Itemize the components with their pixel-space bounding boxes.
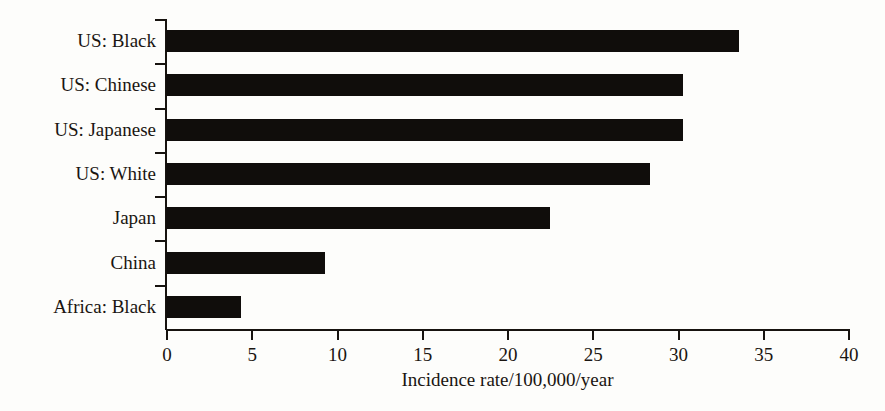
x-axis-tick-label: 5 bbox=[222, 344, 282, 366]
x-axis-tick-label: 35 bbox=[734, 344, 794, 366]
plot-area: US: BlackUS: ChineseUS: JapaneseUS: Whit… bbox=[166, 19, 848, 329]
y-axis-tick-label: US: White bbox=[0, 163, 156, 185]
bar-band: US: Japanese bbox=[166, 108, 848, 152]
x-axis-tick-label: 40 bbox=[819, 344, 879, 366]
x-axis-tick-label: 15 bbox=[393, 344, 453, 366]
y-axis-tick-label: US: Chinese bbox=[0, 74, 156, 96]
bar bbox=[166, 74, 683, 96]
x-axis-tick bbox=[592, 329, 594, 340]
x-axis-tick bbox=[763, 329, 765, 340]
bar-band: US: Black bbox=[166, 19, 848, 63]
x-axis-title: Incidence rate/100,000/year bbox=[166, 368, 849, 392]
x-axis-tick bbox=[166, 329, 168, 340]
x-axis-tick-label: 25 bbox=[563, 344, 623, 366]
y-axis-tick bbox=[155, 240, 166, 242]
x-axis-tick bbox=[337, 329, 339, 340]
y-axis-tick bbox=[155, 19, 166, 21]
bar bbox=[166, 252, 325, 274]
x-axis-tick-label: 0 bbox=[137, 344, 197, 366]
x-axis-tick-label: 10 bbox=[308, 344, 368, 366]
y-axis-tick bbox=[155, 63, 166, 65]
y-axis-tick bbox=[155, 108, 166, 110]
y-axis-tick bbox=[155, 152, 166, 154]
bar-band: US: White bbox=[166, 152, 848, 196]
x-axis-tick bbox=[251, 329, 253, 340]
y-axis-tick-label: US: Black bbox=[0, 30, 156, 52]
y-axis-tick-label: Japan bbox=[0, 207, 156, 229]
bar-band: China bbox=[166, 240, 848, 284]
x-axis-tick bbox=[507, 329, 509, 340]
x-axis-tick bbox=[422, 329, 424, 340]
x-axis-tick bbox=[678, 329, 680, 340]
y-axis-tick-label: China bbox=[0, 252, 156, 274]
x-axis-tick bbox=[848, 329, 850, 340]
y-axis-tick bbox=[155, 285, 166, 287]
bar-band: Japan bbox=[166, 196, 848, 240]
bar-chart-figure: US: BlackUS: ChineseUS: JapaneseUS: Whit… bbox=[0, 0, 885, 411]
y-axis-tick bbox=[155, 196, 166, 198]
bar bbox=[166, 207, 550, 229]
bar bbox=[166, 30, 739, 52]
y-axis-tick-label: Africa: Black bbox=[0, 296, 156, 318]
x-axis-tick-label: 30 bbox=[649, 344, 709, 366]
y-axis-tick-label: US: Japanese bbox=[0, 119, 156, 141]
x-axis-tick-label: 20 bbox=[478, 344, 538, 366]
bar-band: US: Chinese bbox=[166, 63, 848, 107]
bar bbox=[166, 296, 241, 318]
bar-band: Africa: Black bbox=[166, 285, 848, 329]
bar bbox=[166, 119, 683, 141]
bar bbox=[166, 163, 650, 185]
